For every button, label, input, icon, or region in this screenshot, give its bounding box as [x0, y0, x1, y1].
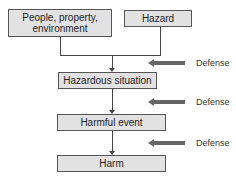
node-harm: Harm: [57, 155, 166, 172]
node-people-property-environment: People, property, environment: [8, 9, 112, 37]
node-label: People, property, environment: [9, 12, 111, 34]
node-label: Harm: [99, 158, 123, 169]
node-harmful-event: Harmful event: [57, 114, 166, 131]
defense-arrow-icon: [148, 98, 185, 106]
defense-label: Defense: [196, 138, 230, 148]
connector-merge: [60, 55, 161, 56]
defense-label: Defense: [196, 58, 230, 68]
node-hazard: Hazard: [124, 10, 192, 27]
connector-situation-to-event: [112, 89, 113, 110]
connector-hazard-down: [160, 27, 161, 55]
node-label: Hazardous situation: [63, 75, 151, 86]
node-hazardous-situation: Hazardous situation: [58, 72, 157, 89]
connector-event-to-harm: [112, 131, 113, 151]
defense-label: Defense: [196, 97, 230, 107]
diagram-canvas: People, property, environment Hazard Haz…: [0, 0, 236, 180]
defense-arrow-icon: [148, 139, 185, 147]
defense-arrow-icon: [148, 59, 185, 67]
node-label: Hazard: [142, 13, 174, 24]
connector-to-hazardous-situation: [112, 55, 113, 68]
connector-people-down: [60, 37, 61, 55]
node-label: Harmful event: [80, 117, 142, 128]
